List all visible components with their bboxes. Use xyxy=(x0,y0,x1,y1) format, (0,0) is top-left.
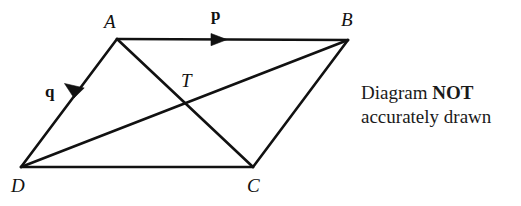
disclaimer-line-1: Diagram NOT xyxy=(361,81,491,105)
disclaimer-emphasis: NOT xyxy=(432,82,473,103)
diagram-disclaimer-note: Diagram NOT accurately drawn xyxy=(361,81,491,130)
vertex-label-b: B xyxy=(341,10,353,29)
intersection-label-t: T xyxy=(181,71,192,90)
disclaimer-line-2: accurately drawn xyxy=(361,105,491,129)
vector-label-q: q xyxy=(45,83,54,100)
vertex-label-a: A xyxy=(104,12,116,31)
vertex-label-c: C xyxy=(247,176,260,195)
vertex-label-d: D xyxy=(11,176,25,195)
disclaimer-prefix: Diagram xyxy=(361,82,432,103)
edge-ab xyxy=(117,39,348,40)
diagram-canvas: A B C D T p q Diagram NOT accurately dra… xyxy=(0,0,521,206)
vector-p-arrowhead xyxy=(211,34,227,46)
vector-label-p: p xyxy=(211,6,220,23)
